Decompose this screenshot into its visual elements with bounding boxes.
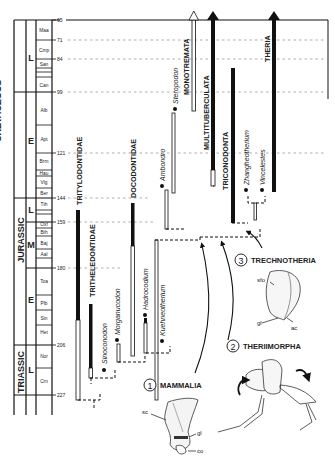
age-label: 180 [57, 265, 66, 271]
taxon-label-morganucodon: Morganucodon [114, 288, 122, 335]
anatomy-label-ac: ac [291, 325, 297, 331]
stage-label: Bth [40, 230, 48, 235]
stage-label: Brm [40, 159, 49, 164]
node-number: 3 [238, 256, 243, 266]
node-label: MAMMALIA [160, 381, 202, 390]
epoch-label: L [28, 205, 34, 215]
clade-label-multituberculata: MULTITUBERCULATA [202, 75, 211, 150]
anatomy-label-sc: sc [142, 409, 148, 415]
ghost-lineages [78, 186, 265, 410]
stage-label: Vlg [41, 180, 48, 185]
stage-label: Sin [41, 316, 48, 321]
scapula-illustration-mammalia [151, 398, 198, 454]
stage-label: Het [40, 330, 48, 335]
anatomy-label-gl: gl [197, 430, 202, 436]
node-arrows [195, 232, 262, 373]
clade-label-docodontidae: DOCODONTIDAE [129, 139, 138, 198]
taxon-label-zhangheotherium: Zhangheotherium [243, 130, 251, 186]
age-label: 227 [57, 392, 66, 398]
taxon-label-vincelestes: Vincelestes [259, 149, 266, 185]
period-label-cretaceous: CRETACEOUS [0, 80, 3, 142]
anatomy-label-sfo: sfo [257, 277, 266, 283]
taxon-label-ambondro: Ambondro [159, 149, 166, 182]
stage-label: San [40, 62, 49, 67]
period-label-triassic: TRIASSIC [16, 351, 26, 394]
stage-label: Apt [40, 137, 48, 142]
stage-label: Baj [41, 241, 48, 246]
stage-label: Oxf [40, 222, 48, 227]
stage-label: Aal [41, 252, 48, 257]
node-label: TRECHNOTHERIA [251, 256, 317, 265]
stage-label: Tth [41, 202, 48, 207]
stage-label: Plb [41, 301, 48, 306]
epoch-label: L [28, 365, 34, 375]
stage-label: Cmp [39, 48, 49, 53]
stage-label: Nor [40, 354, 48, 359]
age-label: 121 [57, 150, 66, 156]
taxon-label-hadrocodium: Hadrocodium [142, 268, 149, 310]
anatomy-label-gl-trechnotheria: gl [257, 320, 262, 326]
clade-label-triconodonta: TRICONODONTA [221, 132, 230, 190]
skeleton-illustration-theriimorpha [218, 360, 316, 432]
node-theriimorpha: 2 THERIIMORPHA [227, 340, 302, 352]
node-trechnotheria: 3 TRECHNOTHERIA [235, 254, 317, 266]
scapula-illustration-trechnotheria [262, 271, 300, 323]
stage-label: Can [40, 83, 49, 88]
clade-label-tritheledontidae: TRITHELEDONTIDAE [88, 224, 97, 297]
age-label: 206 [57, 342, 66, 348]
epoch-label: L [28, 53, 34, 63]
node-label: THERIIMORPHA [243, 342, 302, 351]
stage-label: Toa [40, 279, 48, 284]
taxon-label-sinoconodon: Sinoconodon [101, 323, 108, 364]
age-label: 65 [57, 17, 63, 23]
phylogeny-diagram: CRETACEOUS JURASSIC TRIASSIC L E L M E L… [0, 0, 335, 468]
geologic-timescale: CRETACEOUS JURASSIC TRIASSIC L E L M E L… [0, 17, 328, 415]
epoch-label: E [28, 295, 34, 305]
node-number: 2 [230, 342, 235, 352]
age-label: 99 [57, 89, 63, 95]
age-label: 144 [57, 195, 66, 201]
age-label: 159 [57, 219, 66, 225]
taxon-label-steropodon: Steropodon [172, 68, 180, 104]
epoch-label: M [27, 240, 35, 250]
anatomy-label-co: co [197, 448, 204, 454]
stage-label: Ber [40, 191, 48, 196]
clade-label-theria: THERIA [263, 35, 272, 62]
epoch-label: E [28, 136, 34, 146]
age-gridlines [68, 40, 325, 268]
age-label: 71 [57, 37, 63, 43]
period-label-jurassic: JURASSIC [16, 217, 26, 263]
node-mammalia: 1 MAMMALIA [144, 379, 202, 391]
stage-label: Hau [40, 171, 49, 176]
age-label: 84 [57, 56, 63, 62]
stage-label: Alb [41, 108, 48, 113]
clade-label-monotremata: MONOTREMATA [182, 39, 191, 95]
stage-label: Maa [39, 28, 49, 33]
node-number: 1 [147, 381, 152, 391]
taxon-label-kuehneotherium: Kuehneotherium [159, 284, 166, 336]
stage-label: Crn [40, 379, 48, 384]
clade-label-tritylodontidae: TRITYLODONTIDAE [75, 137, 84, 205]
